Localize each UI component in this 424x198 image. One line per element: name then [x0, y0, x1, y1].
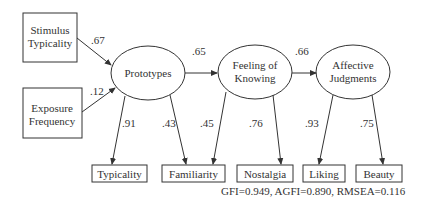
ellipse-prototypes: Prototypes [111, 46, 185, 100]
coef-prototypes-familiarity: .43 [162, 117, 176, 129]
coef-affective-liking: .93 [305, 117, 319, 129]
box-liking: Liking [303, 165, 345, 182]
box-label: Nostalgia [244, 168, 286, 180]
sem-diagram: Stimulus Typicality Exposure Frequency P… [0, 0, 424, 198]
arrow-fok-to-nostalgia [273, 95, 281, 164]
fit-statistics: GFI=0.949, AGFI=0.890, RMSEA=0.116 [221, 185, 406, 197]
ellipse-label: Judgments [329, 72, 376, 84]
coef-exposure-prototypes: .12 [90, 85, 104, 97]
coef-fok-familiarity: .45 [200, 117, 214, 129]
diagram-canvas: Stimulus Typicality Exposure Frequency P… [0, 0, 424, 198]
ellipse-label: Knowing [235, 72, 276, 84]
arrow-fok-to-familiarity [213, 92, 226, 164]
coef-prototypes-typicality: .91 [122, 117, 136, 129]
box-label: Frequency [29, 115, 76, 127]
box-nostalgia: Nostalgia [237, 165, 293, 182]
coef-affective-beauty: .75 [360, 117, 374, 129]
box-typicality: Typicality [92, 165, 147, 182]
box-beauty: Beauty [356, 165, 402, 182]
arrow-affective-to-liking [319, 95, 333, 164]
arrow-prototypes-to-familiarity [170, 95, 186, 164]
arrow-affective-to-beauty [372, 95, 383, 164]
box-label: Beauty [363, 168, 395, 180]
coef-fok-nostalgia: .76 [249, 117, 263, 129]
box-label: Exposure [31, 102, 73, 114]
ellipse-label: Affective [332, 59, 373, 71]
box-label: Typicality [28, 37, 73, 49]
box-familiarity: Familiarity [162, 165, 225, 182]
ellipse-feeling-of-knowing: Feeling of Knowing [218, 45, 292, 99]
box-stimulus-typicality: Stimulus Typicality [23, 13, 77, 62]
box-exposure-frequency: Exposure Frequency [23, 88, 82, 138]
ellipse-affective-judgments: Affective Judgments [316, 45, 390, 99]
coef-fok-affective: .66 [295, 45, 309, 57]
coef-stimulus-prototypes: .67 [91, 34, 105, 46]
box-label: Stimulus [30, 24, 69, 36]
ellipse-label: Prototypes [124, 67, 171, 79]
coef-prototypes-fok: .65 [192, 45, 206, 57]
ellipse-label: Feeling of [233, 59, 278, 71]
box-label: Liking [309, 168, 339, 180]
box-label: Typicality [97, 168, 142, 180]
arrow-prototypes-to-typicality [112, 96, 125, 164]
box-label: Familiarity [169, 168, 218, 180]
